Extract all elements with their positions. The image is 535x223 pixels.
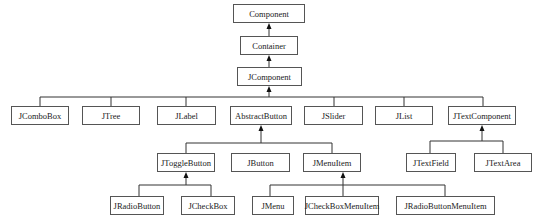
node-jtogglebutton: JToggleButton (157, 153, 215, 172)
node-jradiobuttonmenuitem: JRadioButtonMenuItem (396, 196, 495, 215)
class-hierarchy-diagram: Component Container JComponent JComboBox… (0, 0, 535, 223)
node-jtree: JTree (82, 106, 140, 125)
node-component: Component (233, 4, 305, 23)
arrow-icon (259, 125, 264, 131)
node-container: Container (240, 36, 298, 55)
node-jlabel: JLabel (157, 106, 216, 125)
arrow-icon (267, 55, 272, 61)
node-jslider: JSlider (304, 106, 363, 125)
node-jtextcomponent: JTextComponent (448, 106, 516, 125)
node-jcheckboxmenuitem: JCheckBoxMenuItem (305, 196, 379, 215)
node-jmenu: JMenu (252, 196, 294, 215)
arrow-icon (267, 23, 272, 29)
node-jcheckbox: JCheckBox (181, 196, 235, 215)
node-jbutton: JButton (231, 153, 290, 172)
arrow-icon (341, 172, 346, 178)
node-jtextfield: JTextField (406, 153, 456, 172)
node-jradiobutton: JRadioButton (110, 196, 164, 215)
node-jcombobox: JComboBox (11, 106, 69, 125)
arrow-icon (480, 125, 485, 131)
node-jtextarea: JTextArea (474, 153, 532, 172)
arrow-icon (184, 172, 189, 178)
node-jmenuitem: JMenuItem (303, 153, 361, 172)
arrow-icon (267, 86, 272, 92)
node-abstractbutton: AbstractButton (230, 106, 292, 125)
node-jlist: JList (375, 106, 433, 125)
node-jcomponent: JComponent (237, 67, 302, 86)
